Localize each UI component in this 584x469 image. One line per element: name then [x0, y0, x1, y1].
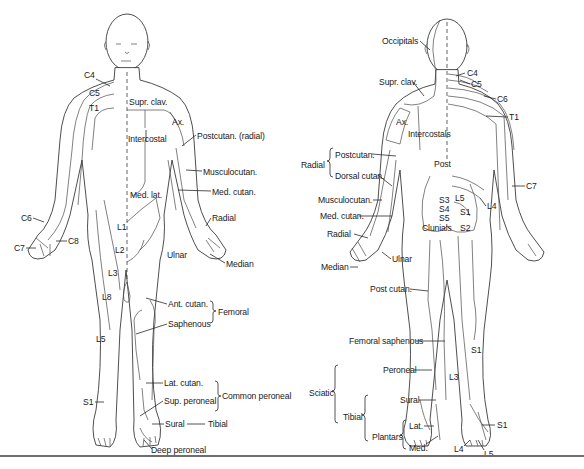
label-postcutan-radial: Postcutan. (radial): [197, 131, 265, 141]
label-occipitals: Occipitals: [382, 36, 418, 46]
label-l5: L5: [96, 334, 105, 344]
dermatome-diagram: C4 C5 T1 Supr. clav. Ax. Postcutan. (rad…: [0, 0, 584, 469]
label-c7: C7: [14, 243, 25, 253]
label-c5: C5: [89, 88, 100, 98]
label-lat: Lat.: [409, 421, 423, 431]
label-peroneal: Peroneal: [383, 365, 417, 375]
label-post-cutan: Post cutan.: [370, 284, 412, 294]
label-s1-leg: S1: [471, 345, 481, 355]
label-dorsal-cutan: Dorsal cutan.: [335, 171, 384, 181]
label-med-lat: Med. lat.: [130, 190, 162, 200]
label-common-peroneal: Common peroneal: [222, 391, 291, 401]
label-intercostal: Intercostal: [128, 134, 167, 144]
label-post: Post: [434, 159, 451, 169]
label-deep-peroneal: Deep peroneal: [151, 445, 206, 455]
label-sural: Sural: [165, 419, 185, 429]
label-s1-foot: S1: [497, 420, 507, 430]
label-med-cutan: Med. cutan.: [212, 187, 256, 197]
label-l5-foot: L5: [484, 449, 493, 459]
label-c7: C7: [526, 181, 537, 191]
label-ulnar: Ulnar: [392, 254, 412, 264]
label-s1: S1: [83, 397, 93, 407]
label-postcutan: Postcutan.: [335, 150, 375, 160]
label-c4: C4: [84, 70, 95, 80]
label-s1-upper: S1: [460, 207, 470, 217]
label-l5: L5: [455, 193, 464, 203]
label-ax: Ax.: [396, 117, 408, 127]
label-lat-cutan: Lat. cutan.: [164, 378, 203, 388]
label-saphenous: Saphenous: [168, 319, 211, 329]
label-c5: C5: [471, 79, 482, 89]
label-radial: Radial: [327, 229, 351, 239]
label-supr-clav: Supr. clav.: [129, 97, 167, 107]
label-c6: C6: [21, 213, 32, 223]
label-femoral-saphenous: Femoral saphenous: [349, 336, 423, 346]
label-radial: Radial: [212, 213, 236, 223]
label-sciatic: Sciatic: [309, 388, 334, 398]
label-supr-clav: Supr. clav.: [379, 77, 417, 87]
label-tibial: Tibial: [343, 412, 363, 422]
label-med-cutan: Med. cutan.: [320, 211, 364, 221]
label-t1: T1: [509, 112, 519, 122]
label-sural: Sural: [400, 395, 420, 405]
label-l3: L3: [449, 372, 458, 382]
label-c6: C6: [497, 94, 508, 104]
anterior-head: [106, 14, 148, 70]
label-s5: S5: [439, 213, 449, 223]
label-l4-foot: L4: [454, 444, 463, 454]
label-median: Median: [321, 262, 349, 272]
label-radial-group: Radial: [301, 160, 325, 170]
posterior-body-outline: [350, 70, 544, 446]
label-t1: T1: [89, 103, 99, 113]
label-med: Med.: [409, 443, 428, 453]
label-median: Median: [226, 259, 254, 269]
label-l1: L1: [117, 222, 126, 232]
label-l2: L2: [115, 245, 124, 255]
label-c8: C8: [68, 236, 79, 246]
label-s2: S2: [460, 223, 470, 233]
label-l3: L3: [108, 268, 117, 278]
label-tibial: Tibial: [208, 419, 228, 429]
label-clunials: Clunials: [422, 223, 452, 233]
label-musculocutan: Musculocutan.: [203, 167, 257, 177]
label-ulnar: Ulnar: [167, 250, 187, 260]
label-musculocutan: Musculocutan.: [318, 195, 372, 205]
label-l8: L8: [102, 292, 111, 302]
label-intercostals: Intercostals: [408, 129, 451, 139]
bottom-divider: [0, 455, 584, 457]
label-plantars: Plantars: [372, 432, 403, 442]
label-sup-peroneal: Sup. peroneal: [164, 396, 216, 406]
label-l4: L4: [487, 201, 496, 211]
label-c4: C4: [467, 68, 478, 78]
label-femoral: Femoral: [218, 307, 249, 317]
label-ant-cutan: Ant. cutan.: [168, 299, 208, 309]
label-ax: Ax.: [172, 117, 184, 127]
